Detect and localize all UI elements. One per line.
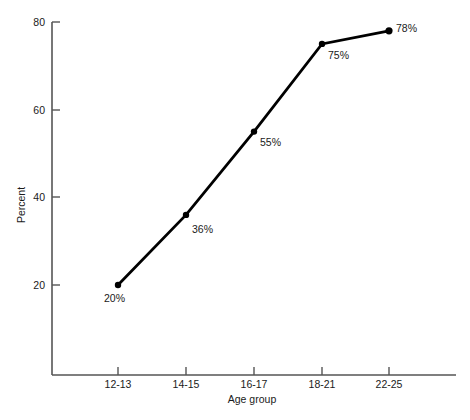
y-tick-label-80: 80 — [33, 16, 45, 28]
x-tick-label-3: 18-21 — [309, 378, 336, 390]
data-point-marker-1 — [183, 212, 189, 218]
y-axis-title: Percent — [15, 187, 27, 223]
data-series-line — [118, 31, 389, 285]
data-point-marker-2 — [251, 128, 257, 134]
data-point-marker-4 — [385, 27, 392, 34]
x-tick-label-2: 16-17 — [241, 378, 268, 390]
data-point-label-3: 75% — [328, 49, 349, 61]
data-point-marker-0 — [115, 282, 121, 288]
data-point-label-2: 55% — [260, 136, 281, 148]
data-point-marker-3 — [319, 41, 325, 47]
x-axis-title: Age group — [228, 393, 277, 405]
y-tick-label-20: 20 — [33, 279, 45, 291]
y-tick-label-60: 60 — [33, 104, 45, 116]
y-tick-label-40: 40 — [33, 191, 45, 203]
x-tick-label-4: 22-25 — [376, 378, 403, 390]
data-point-label-1: 36% — [192, 223, 213, 235]
x-tick-label-0: 12-13 — [105, 378, 132, 390]
data-point-label-4: 78% — [396, 22, 417, 34]
line-chart: 80 60 40 20 Percent 12-13 14-15 16-17 18… — [0, 0, 470, 420]
x-tick-label-1: 14-15 — [173, 378, 200, 390]
data-point-label-0: 20% — [104, 292, 125, 304]
chart-canvas: 80 60 40 20 Percent 12-13 14-15 16-17 18… — [0, 0, 470, 420]
